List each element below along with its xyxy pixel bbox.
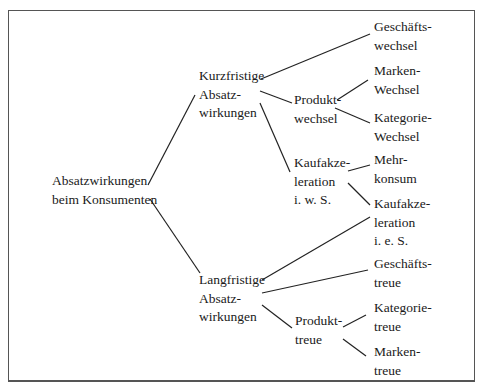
node-line: Kaufakze- xyxy=(374,195,430,214)
node-line: Produkt- xyxy=(295,312,342,331)
node-line: Produkt- xyxy=(294,91,341,110)
node-kaufakzeleration-iws: Kaufakze- leration i. w. S. xyxy=(294,154,350,210)
edge-lang-kaufakz-ies xyxy=(262,217,370,280)
edge-produkttreue-markentreue xyxy=(343,339,366,356)
edge-kurz-kaufakz-iws xyxy=(260,103,290,172)
edge-kaufakz-iws-kaufakz-ies xyxy=(348,183,370,205)
node-line: beim Konsumenten xyxy=(52,191,157,210)
edge-root-lang xyxy=(150,199,200,273)
node-line: Absatz- xyxy=(199,290,265,309)
node-produkttreue: Produkt- treue xyxy=(295,312,342,349)
node-line: Kategorie- xyxy=(374,299,432,318)
node-line: leration xyxy=(294,173,350,192)
node-geschaeftswechsel: Geschäfts- wechsel xyxy=(374,18,432,55)
node-line: Wechsel xyxy=(374,81,420,100)
node-line: leration xyxy=(374,214,430,233)
node-line: wirkungen xyxy=(199,104,264,123)
node-kurzfristige-absatzwirkungen: Kurzfristige Absatz- wirkungen xyxy=(199,67,264,123)
node-line: Kurzfristige xyxy=(199,67,264,86)
edge-kurz-produktwechsel xyxy=(260,91,292,103)
node-line: treue xyxy=(374,362,420,381)
node-mehrkonsum: Mehr- konsum xyxy=(374,151,417,188)
node-line: Absatzwirkungen xyxy=(52,172,157,191)
node-line: konsum xyxy=(374,170,417,189)
node-line: Marken- xyxy=(374,343,420,362)
node-absatzwirkungen-konsumenten: Absatzwirkungen beim Konsumenten xyxy=(52,172,157,209)
node-line: Wechsel xyxy=(374,128,432,147)
node-produktwechsel: Produkt- wechsel xyxy=(294,91,341,128)
node-line: Absatz- xyxy=(199,86,264,105)
node-geschaeftstreue: Geschäfts- treue xyxy=(374,255,432,292)
node-line: i. e. S. xyxy=(374,232,430,251)
node-markentreue: Marken- treue xyxy=(374,343,420,380)
node-line: i. w. S. xyxy=(294,191,350,210)
node-line: Mehr- xyxy=(374,151,417,170)
node-line: Kategorie- xyxy=(374,109,432,128)
node-line: Geschäfts- xyxy=(374,18,432,37)
node-line: treue xyxy=(374,274,432,293)
node-kaufakzeleration-ies: Kaufakze- leration i. e. S. xyxy=(374,195,430,251)
node-line: wirkungen xyxy=(199,308,265,327)
node-langfristige-absatzwirkungen: Langfristige Absatz- wirkungen xyxy=(199,271,265,327)
node-line: Langfristige xyxy=(199,271,265,290)
node-kategoriewechsel: Kategorie- Wechsel xyxy=(374,109,432,146)
edge-kurz-geschaeftswechsel xyxy=(261,34,370,79)
node-line: treue xyxy=(295,331,342,350)
node-line: Geschäfts- xyxy=(374,255,432,274)
node-markenwechsel: Marken- Wechsel xyxy=(374,62,420,99)
edge-kaufakz-iws-mehrkonsum xyxy=(348,165,370,171)
node-line: Marken- xyxy=(374,62,420,81)
edge-produkttreue-kategorietreue xyxy=(343,315,366,327)
node-line: Kaufakze- xyxy=(294,154,350,173)
node-kategorietreue: Kategorie- treue xyxy=(374,299,432,336)
edge-produktwechsel-markenwechsel xyxy=(337,80,368,100)
node-line: treue xyxy=(374,318,432,337)
node-line: wechsel xyxy=(294,110,341,129)
edge-lang-produkttreue xyxy=(262,305,292,328)
node-line: wechsel xyxy=(374,37,432,56)
edge-lang-geschaeftstreue xyxy=(262,270,368,293)
